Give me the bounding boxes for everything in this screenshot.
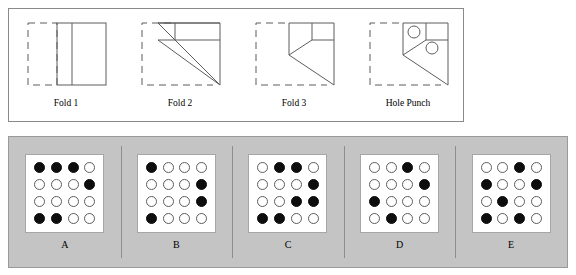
hole-open-icon: [531, 162, 542, 173]
hole-open-icon: [514, 196, 525, 207]
hole-open-icon: [386, 162, 397, 173]
grid-cell: [82, 160, 99, 177]
hole-open-icon: [497, 179, 508, 190]
grid-cell: [528, 160, 545, 177]
fold-step-fold-1: Fold 1: [9, 9, 123, 121]
hole-open-icon: [481, 162, 492, 173]
grid-cell: [416, 193, 433, 210]
answer-option-c[interactable]: C: [232, 137, 344, 267]
grid-cell: [416, 160, 433, 177]
hole-open-icon: [257, 162, 268, 173]
hole-filled-icon: [386, 213, 397, 224]
grid-cell: [176, 210, 193, 227]
fold-1-label: Fold 1: [54, 97, 79, 109]
fold-3-diagram: [237, 9, 351, 97]
grid-cell: [65, 176, 82, 193]
grid-cell: [366, 193, 383, 210]
hole-open-icon: [163, 179, 174, 190]
hole-open-icon: [179, 162, 190, 173]
answer-label-b: B: [173, 239, 180, 251]
hole-filled-icon: [146, 213, 157, 224]
grid-cell: [478, 176, 495, 193]
fold-2-label: Fold 2: [168, 97, 193, 109]
hole-open-icon: [179, 196, 190, 207]
grid-cell: [511, 210, 528, 227]
answer-grid-d: [360, 154, 439, 233]
hole-open-icon: [257, 179, 268, 190]
hole-filled-icon: [146, 162, 157, 173]
grid-cell: [288, 176, 305, 193]
hole-open-icon: [402, 179, 413, 190]
grid-cell: [48, 210, 65, 227]
hole-open-icon: [196, 213, 207, 224]
fold-sequence-panel: Fold 1 Fold 2: [8, 8, 464, 122]
hole-open-icon: [497, 162, 508, 173]
grid-cell: [416, 176, 433, 193]
grid-cell: [31, 193, 48, 210]
answer-options-panel: A B C D E: [8, 136, 568, 268]
grid-cell: [271, 210, 288, 227]
answer-option-d[interactable]: D: [344, 137, 456, 267]
hole-open-icon: [419, 213, 430, 224]
hole-open-icon: [419, 162, 430, 173]
grid-cell: [160, 210, 177, 227]
grid-cell: [366, 160, 383, 177]
hole-filled-icon: [481, 213, 492, 224]
grid-cell: [288, 160, 305, 177]
answer-option-b[interactable]: B: [121, 137, 233, 267]
hole-open-icon: [481, 196, 492, 207]
grid-cell: [193, 176, 210, 193]
grid-cell: [305, 160, 322, 177]
grid-cell: [494, 193, 511, 210]
answer-label-d: D: [396, 239, 403, 251]
hole-filled-icon: [369, 196, 380, 207]
grid-cell: [193, 193, 210, 210]
answer-option-e[interactable]: E: [455, 137, 567, 267]
hole-open-icon: [497, 213, 508, 224]
hole-filled-icon: [34, 213, 45, 224]
grid-cell: [176, 193, 193, 210]
grid-cell: [176, 160, 193, 177]
answer-label-a: A: [61, 239, 68, 251]
hole-open-icon: [84, 213, 95, 224]
hole-filled-icon: [274, 213, 285, 224]
hole-punch-label: Hole Punch: [386, 97, 431, 109]
hole-filled-icon: [257, 213, 268, 224]
grid-cell: [416, 210, 433, 227]
grid-cell: [494, 210, 511, 227]
answer-grid-a: [25, 154, 104, 233]
hole-open-icon: [419, 196, 430, 207]
hole-punch-diagram: [351, 9, 465, 97]
hole-open-icon: [531, 213, 542, 224]
fold-step-fold-2: Fold 2: [123, 9, 237, 121]
answer-label-c: C: [285, 239, 292, 251]
grid-cell: [193, 160, 210, 177]
grid-cell: [511, 176, 528, 193]
hole-open-icon: [179, 213, 190, 224]
grid-cell: [65, 160, 82, 177]
hole-open-icon: [163, 162, 174, 173]
answer-grid-c: [248, 154, 327, 233]
grid-cell: [478, 210, 495, 227]
grid-cell: [31, 210, 48, 227]
answer-option-a[interactable]: A: [9, 137, 121, 267]
grid-cell: [160, 193, 177, 210]
fold-1-diagram: [9, 9, 123, 97]
hole-open-icon: [146, 179, 157, 190]
grid-cell: [494, 176, 511, 193]
hole-open-icon: [51, 196, 62, 207]
hole-filled-icon: [51, 162, 62, 173]
grid-cell: [400, 210, 417, 227]
grid-cell: [160, 160, 177, 177]
hole-open-icon: [84, 162, 95, 173]
grid-cell: [48, 176, 65, 193]
hole-filled-icon: [51, 213, 62, 224]
grid-cell: [478, 193, 495, 210]
hole-filled-icon: [196, 179, 207, 190]
hole-filled-icon: [419, 179, 430, 190]
grid-cell: [383, 210, 400, 227]
grid-cell: [31, 176, 48, 193]
grid-cell: [65, 210, 82, 227]
hole-filled-icon: [34, 162, 45, 173]
grid-cell: [143, 160, 160, 177]
